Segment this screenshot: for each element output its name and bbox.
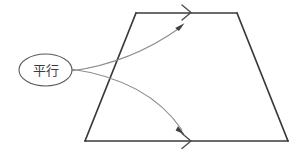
trapezoid-shape [85,13,288,141]
trapezoid-edge-left [85,13,136,141]
geometry-diagram-canvas: 平行 [0,0,305,158]
upper-leader-curve [71,27,181,71]
trapezoid-edge-right [237,13,288,141]
diagram-svg: 平行 [0,0,305,158]
leader-arrows-group [71,23,185,134]
lower-leader-curve [71,69,182,130]
parallel-marks-group [182,5,191,149]
callout-label: 平行 [33,63,59,78]
parallel-callout: 平行 [19,54,72,86]
